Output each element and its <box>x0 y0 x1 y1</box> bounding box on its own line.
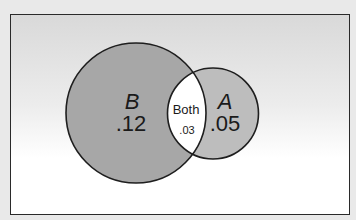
intersection-label: Both <box>173 102 200 117</box>
venn-diagram: B .12 Both .03 A .05 <box>0 0 356 220</box>
set-b-value: .12 <box>116 111 147 136</box>
set-a-value: .05 <box>210 111 241 136</box>
intersection-value: .03 <box>179 124 194 136</box>
venn-diagram-figure: B .12 Both .03 A .05 <box>0 0 356 220</box>
